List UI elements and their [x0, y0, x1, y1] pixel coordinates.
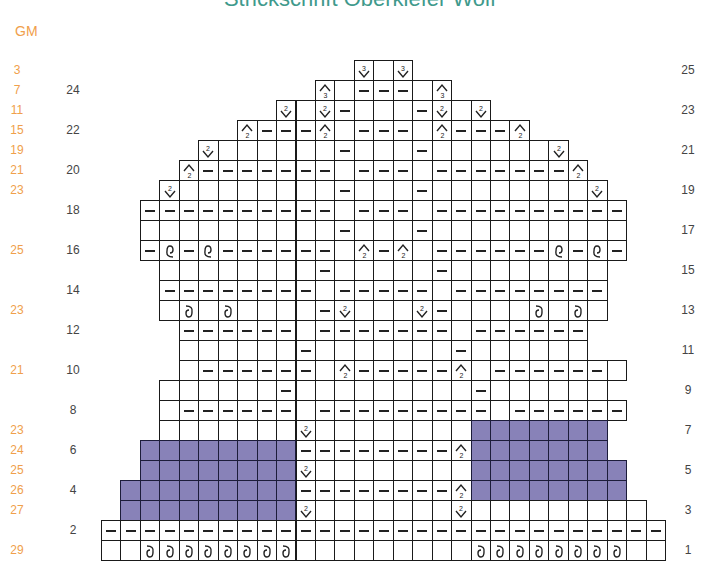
svg-text:2: 2	[207, 145, 211, 152]
twisted-stitch-icon	[182, 543, 196, 559]
shaded-no-stitch-cell	[471, 480, 491, 501]
purl-stitch-cell	[548, 360, 568, 381]
purl-dash-icon	[262, 410, 272, 412]
purl-dash-icon	[379, 290, 389, 292]
decrease-2-icon: 2	[590, 183, 604, 199]
purl-stitch-cell	[315, 300, 335, 321]
shaded-no-stitch-cell	[257, 460, 277, 481]
purl-stitch-cell	[490, 200, 510, 221]
decrease-2-cell: 2	[412, 300, 432, 321]
purl-dash-icon	[262, 370, 272, 372]
purl-stitch-cell	[334, 480, 354, 501]
empty-stitch-cell	[218, 420, 238, 441]
purl-stitch-cell	[296, 160, 316, 181]
purl-dash-icon	[262, 170, 272, 172]
purl-stitch-cell	[296, 240, 316, 261]
empty-stitch-cell	[490, 140, 510, 161]
purl-stitch-cell	[529, 200, 549, 221]
purl-stitch-cell	[373, 440, 393, 461]
purl-dash-icon	[534, 210, 544, 212]
purl-dash-icon	[223, 370, 233, 372]
purl-dash-icon	[612, 410, 622, 412]
decrease-2-cell: 2	[198, 140, 218, 161]
svg-text:2: 2	[557, 145, 561, 152]
purl-stitch-cell	[257, 520, 277, 541]
empty-stitch-cell	[334, 540, 354, 561]
purl-dash-icon	[476, 130, 486, 132]
knitting-chart-grid: 333322222222222222222222222222	[0, 0, 720, 578]
purl-stitch-cell	[471, 400, 491, 421]
shaded-no-stitch-cell	[509, 460, 529, 481]
purl-dash-icon	[320, 250, 330, 252]
twisted-stitch-cell	[548, 540, 568, 561]
empty-stitch-cell	[315, 540, 335, 561]
purl-stitch-cell	[393, 200, 413, 221]
empty-stitch-cell	[159, 300, 179, 321]
empty-stitch-cell	[296, 300, 316, 321]
empty-stitch-cell	[354, 180, 374, 201]
empty-stitch-cell	[218, 260, 238, 281]
purl-dash-icon	[320, 410, 330, 412]
purl-dash-icon	[456, 410, 466, 412]
empty-stitch-cell	[179, 260, 199, 281]
purl-dash-icon	[301, 490, 311, 492]
twisted-stitch-icon	[610, 543, 624, 559]
shaded-no-stitch-cell	[218, 500, 238, 521]
empty-stitch-cell	[179, 380, 199, 401]
empty-stitch-cell	[607, 500, 627, 521]
purl-stitch-cell	[393, 400, 413, 421]
purl-dash-icon	[495, 130, 505, 132]
purl-stitch-cell	[568, 400, 588, 421]
decrease-2-cell: 2	[296, 460, 316, 481]
decrease-2-icon: 2	[279, 103, 293, 119]
shaded-no-stitch-cell	[257, 480, 277, 501]
empty-stitch-cell	[529, 380, 549, 401]
purl-dash-icon	[515, 530, 525, 532]
shaded-no-stitch-cell	[490, 460, 510, 481]
svg-text:2: 2	[168, 185, 172, 192]
shaded-no-stitch-cell	[237, 500, 257, 521]
empty-stitch-cell	[257, 140, 277, 161]
purl-dash-icon	[554, 370, 564, 372]
purl-dash-icon	[203, 330, 213, 332]
shaded-no-stitch-cell	[198, 480, 218, 501]
purl-dash-icon	[573, 330, 583, 332]
purl-dash-icon	[340, 190, 350, 192]
empty-stitch-cell	[587, 260, 607, 281]
purl-dash-icon	[203, 370, 213, 372]
purl-dash-icon	[495, 330, 505, 332]
empty-stitch-cell	[548, 500, 568, 521]
empty-stitch-cell	[296, 260, 316, 281]
purl-dash-icon	[223, 290, 233, 292]
purl-dash-icon	[242, 290, 252, 292]
purl-stitch-cell	[179, 200, 199, 221]
empty-stitch-cell	[626, 540, 646, 561]
purl-stitch-cell	[198, 360, 218, 381]
shaded-no-stitch-cell	[257, 500, 277, 521]
twisted-stitch-icon	[163, 543, 177, 559]
decrease-2-icon: 2	[474, 103, 488, 119]
purl-stitch-cell	[198, 280, 218, 301]
twisted-stitch-cell	[179, 300, 199, 321]
purl-stitch-cell	[237, 240, 257, 261]
purl-dash-icon	[476, 330, 486, 332]
empty-stitch-cell	[451, 260, 471, 281]
empty-stitch-cell	[490, 400, 510, 421]
empty-stitch-cell	[393, 100, 413, 121]
purl-dash-icon	[262, 130, 272, 132]
purl-dash-icon	[340, 290, 350, 292]
decrease-2-icon: 2	[318, 103, 332, 119]
svg-text:2: 2	[420, 305, 424, 312]
purl-stitch-cell	[373, 200, 393, 221]
empty-stitch-cell	[334, 160, 354, 181]
svg-text:2: 2	[460, 452, 464, 459]
purl-stitch-cell	[315, 240, 335, 261]
twisted-stitch-cell	[529, 540, 549, 561]
shaded-no-stitch-cell	[179, 460, 199, 481]
purl-stitch-cell	[315, 480, 335, 501]
purl-stitch-cell	[451, 340, 471, 361]
empty-stitch-cell	[179, 420, 199, 441]
purl-dash-icon	[379, 250, 389, 252]
empty-stitch-cell	[296, 380, 316, 401]
empty-stitch-cell	[179, 220, 199, 241]
